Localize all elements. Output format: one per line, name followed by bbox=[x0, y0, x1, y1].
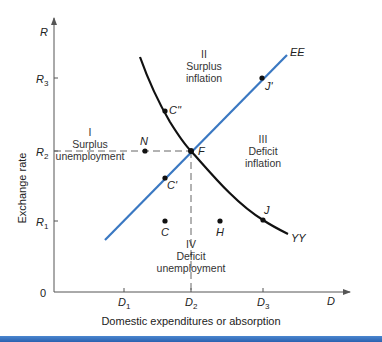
region-iv: IV Deficit unemployment bbox=[157, 238, 226, 274]
point-c-double-prime-label: C'' bbox=[169, 104, 182, 116]
point-c-prime-label: C' bbox=[167, 179, 178, 191]
point-f-label: F bbox=[198, 145, 206, 157]
point-h-label: H bbox=[216, 226, 224, 238]
svg-text:Surplus: Surplus bbox=[186, 60, 222, 72]
x-axis-symbol: D bbox=[327, 295, 335, 307]
bottom-accent-bar bbox=[0, 336, 382, 342]
yy-label: YY bbox=[291, 232, 306, 244]
tick-r2: R2 bbox=[36, 146, 49, 161]
point-j-prime-label: J' bbox=[264, 80, 274, 92]
svg-text:II: II bbox=[201, 48, 207, 60]
svg-text:III: III bbox=[259, 133, 268, 145]
y-axis-title: Exchange rate bbox=[16, 153, 28, 224]
svg-text:unemployment: unemployment bbox=[157, 262, 226, 274]
y-axis-symbol: R bbox=[40, 26, 48, 38]
ee-label: EE bbox=[290, 46, 305, 58]
svg-text:Surplus: Surplus bbox=[72, 138, 108, 150]
region-i: I Surplus unemployment bbox=[56, 126, 125, 162]
point-c-label: C bbox=[161, 226, 169, 238]
tick-d3: D3 bbox=[257, 296, 270, 311]
x-axis-title: Domestic expenditures or absorption bbox=[101, 315, 280, 327]
svg-text:inflation: inflation bbox=[245, 157, 281, 169]
origin-label: 0 bbox=[40, 287, 46, 299]
region-ii: II Surplus inflation bbox=[186, 48, 222, 84]
svg-text:I: I bbox=[89, 126, 92, 138]
tick-r1: R1 bbox=[36, 216, 49, 231]
svg-text:unemployment: unemployment bbox=[56, 150, 125, 162]
svg-text:Deficit: Deficit bbox=[248, 145, 277, 157]
tick-d2: D2 bbox=[185, 296, 198, 311]
diagram: R D 0 R3 R2 R1 D1 D2 D3 Domestic expendi… bbox=[0, 0, 382, 342]
point-j-label: J bbox=[263, 204, 270, 216]
svg-text:inflation: inflation bbox=[186, 72, 222, 84]
point-n-label: N bbox=[140, 135, 148, 147]
tick-r3: R3 bbox=[36, 73, 49, 88]
svg-text:IV: IV bbox=[186, 238, 196, 250]
region-iii: III Deficit inflation bbox=[245, 133, 281, 169]
tick-d1: D1 bbox=[118, 296, 131, 311]
svg-text:Deficit: Deficit bbox=[176, 250, 205, 262]
